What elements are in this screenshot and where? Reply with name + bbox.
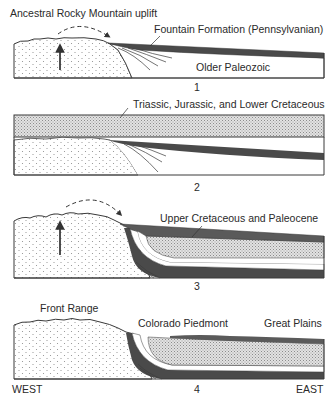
erosion-arrow-icon (58, 26, 108, 36)
label-east: EAST (296, 383, 324, 395)
label-west: WEST (12, 383, 43, 395)
label-uplift: Ancestral Rocky Mountain uplift (10, 7, 157, 19)
panel-2: Triassic, Jurassic, and Lower Cretaceous… (14, 98, 325, 193)
panel-4: Front Range Colorado Piedmont Great Plai… (12, 302, 324, 395)
panel-3: Upper Cretaceous and Paleocene 3 (14, 200, 324, 292)
geologic-cross-sections: Ancestral Rocky Mountain uplift Fountain… (0, 0, 331, 398)
label-upper-cretaceous: Upper Cretaceous and Paleocene (160, 212, 318, 224)
label-front-range: Front Range (40, 302, 99, 314)
panel-number-3: 3 (194, 280, 200, 292)
mesozoic-layer (14, 115, 324, 137)
panel-number-2: 2 (194, 181, 200, 193)
erosion-arrow-icon (66, 200, 120, 214)
label-older-paleozoic: Older Paleozoic (196, 61, 270, 73)
label-colorado-piedmont: Colorado Piedmont (138, 317, 228, 329)
panel-number-4: 4 (194, 383, 200, 395)
panel-number-1: 1 (194, 81, 200, 93)
label-great-plains: Great Plains (264, 317, 322, 329)
label-mesozoic: Triassic, Jurassic, and Lower Cretaceous (133, 98, 325, 110)
label-fountain: Fountain Formation (Pennsylvanian) (154, 23, 323, 35)
panel-1: Ancestral Rocky Mountain uplift Fountain… (10, 7, 324, 93)
